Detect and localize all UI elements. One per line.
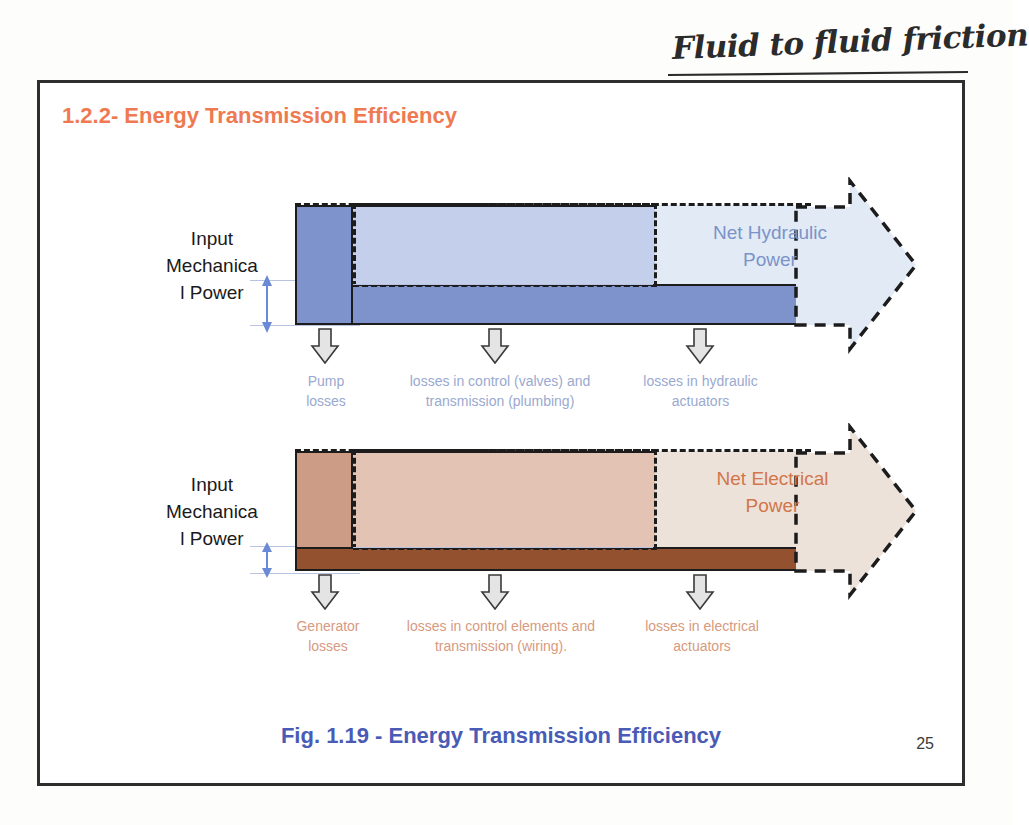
hydraulic-pump-segment (295, 205, 353, 325)
electrical-bottom-band (295, 547, 810, 571)
electrical-loss3-line1: losses in electrical (618, 616, 786, 636)
hydraulic-loss-caption-1: Pump losses (272, 371, 380, 411)
electrical-dashed-region (353, 449, 657, 550)
page-number: 25 (916, 735, 934, 753)
electrical-net-line-2: Power (680, 492, 865, 519)
electrical-loss-caption-3: losses in electrical actuators (618, 616, 786, 656)
electrical-dashed-top-edge (295, 449, 811, 452)
hydraulic-loss1-line1: Pump (272, 371, 380, 391)
electrical-input-label: Input Mechanica l Power (152, 471, 272, 552)
hydraulic-net-power-label: Net Hydraulic Power (680, 219, 860, 273)
hydraulic-net-line-1: Net Hydraulic (680, 219, 860, 246)
electrical-loss-caption-2: losses in control elements and transmiss… (370, 616, 632, 656)
electrical-loss3-line2: actuators (618, 636, 786, 656)
electrical-loss2-line2: transmission (wiring). (370, 636, 632, 656)
electrical-loss-arrow-3 (685, 574, 715, 610)
electrical-loss-arrow-1 (310, 574, 340, 610)
electrical-input-line-2: Mechanica (152, 498, 272, 525)
hydraulic-loss3-line1: losses in hydraulic (618, 371, 783, 391)
hydraulic-dashed-top-edge (295, 203, 811, 206)
electrical-loss-arrow-2 (480, 574, 510, 610)
hydraulic-loss-arrow-1 (310, 328, 340, 364)
hydraulic-loss-caption-2: losses in control (valves) and transmiss… (370, 371, 630, 411)
electrical-inner-guide (353, 547, 653, 548)
hydraulic-loss3-line2: actuators (618, 391, 783, 411)
hydraulic-inner-guide (353, 284, 653, 285)
hydraulic-bottom-band (353, 284, 810, 325)
electrical-input-line-1: Input (152, 471, 272, 498)
hydraulic-loss2-line2: transmission (plumbing) (370, 391, 630, 411)
hydraulic-input-line-1: Input (152, 225, 272, 252)
hydraulic-loss-arrow-2 (480, 328, 510, 364)
electrical-loss2-line1: losses in control elements and (370, 616, 632, 636)
hydraulic-loss-caption-3: losses in hydraulic actuators (618, 371, 783, 411)
electrical-loss-caption-1: Generator losses (272, 616, 384, 656)
hydraulic-dashed-region (353, 203, 657, 287)
electrical-loss1-line2: losses (272, 636, 384, 656)
electrical-net-line-1: Net Electrical (680, 465, 865, 492)
hydraulic-loss1-line2: losses (272, 391, 380, 411)
slide-title: 1.2.2- Energy Transmission Efficiency (62, 103, 457, 129)
figure-caption: Fig. 1.19 - Energy Transmission Efficien… (40, 723, 962, 749)
hydraulic-net-line-2: Power (680, 246, 860, 273)
hydraulic-loss-arrow-3 (685, 328, 715, 364)
figure-frame: 1.2.2- Energy Transmission Efficiency In… (37, 80, 965, 786)
electrical-net-power-label: Net Electrical Power (680, 465, 865, 519)
hydraulic-loss2-line1: losses in control (valves) and (370, 371, 630, 391)
electrical-loss1-line1: Generator (272, 616, 384, 636)
